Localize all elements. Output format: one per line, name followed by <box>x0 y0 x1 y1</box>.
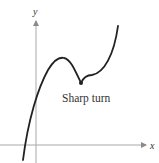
graph: y x Sharp turn <box>0 0 159 163</box>
sharp-turn-label: Sharp turn <box>62 92 110 105</box>
y-axis-label: y <box>32 6 38 17</box>
x-axis-label: x <box>149 140 155 151</box>
sharp-turn-point <box>79 81 83 85</box>
function-curve-right <box>81 26 118 83</box>
